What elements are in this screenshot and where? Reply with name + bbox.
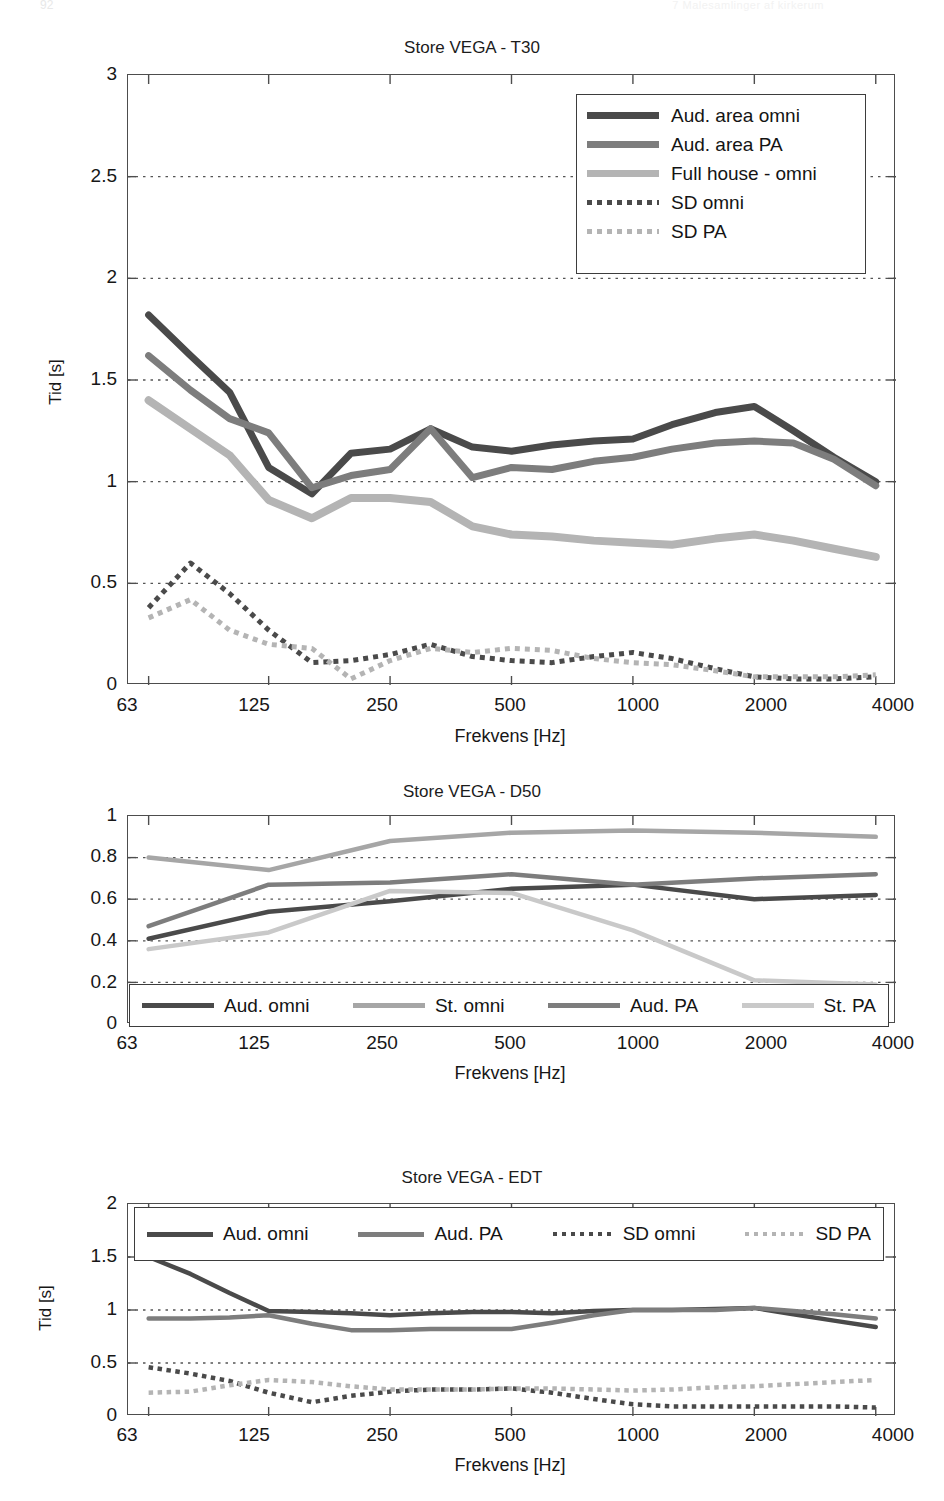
legend-label: Aud. PA: [434, 1223, 502, 1245]
legend-edt[interactable]: Aud. omni Aud. PA SD omni SD PA: [134, 1207, 884, 1261]
legend-item-aud-area-pa[interactable]: Aud. area PA: [587, 130, 865, 159]
legend-dotted-swatch: [587, 229, 659, 234]
legend-line-swatch: [353, 1003, 425, 1008]
x-tick-edt-4000: 4000: [853, 1424, 933, 1446]
legend-line-swatch: [358, 1232, 424, 1237]
chart-title-d50: Store VEGA - D50: [0, 782, 944, 802]
x-tick-edt-125: 125: [219, 1424, 289, 1446]
y-tick-d50-0_8: 0.8: [55, 845, 117, 867]
x-tick-t30-125: 125: [219, 694, 289, 716]
x-tick-t30-2000: 2000: [726, 694, 806, 716]
y-tick-d50-1: 1: [75, 804, 117, 826]
legend-label: Aud. PA: [630, 995, 698, 1017]
y-tick-edt-1: 1: [75, 1298, 117, 1320]
legend-d50[interactable]: Aud. omni St. omni Aud. PA St. PA: [129, 984, 889, 1027]
x-tick-t30-1000: 1000: [598, 694, 678, 716]
y-tick-edt-0_5: 0.5: [55, 1351, 117, 1373]
x-tick-t30-63: 63: [92, 694, 162, 716]
series-line-sd-omni: [149, 1367, 876, 1407]
legend-label: Aud. omni: [224, 995, 310, 1017]
legend-line-swatch: [587, 112, 659, 119]
legend-line-swatch: [587, 170, 659, 177]
legend-row-edt: Aud. omni Aud. PA SD omni SD PA: [135, 1208, 883, 1260]
legend-item-aud-pa[interactable]: Aud. PA: [548, 995, 698, 1017]
legend-line-swatch: [548, 1003, 620, 1008]
legend-dotted-swatch: [553, 1232, 613, 1236]
legend-item-sd-pa[interactable]: SD PA: [587, 217, 865, 246]
y-tick-edt-1_5: 1.5: [55, 1245, 117, 1267]
x-tick-t30-500: 500: [475, 694, 545, 716]
y-tick-t30-1_5: 1.5: [55, 368, 117, 390]
legend-label: SD PA: [815, 1223, 871, 1245]
series-line-st-omni: [149, 831, 876, 871]
y-tick-t30-3: 3: [75, 63, 117, 85]
legend-label: Aud. area omni: [671, 105, 800, 127]
legend-item-sd-pa[interactable]: SD PA: [745, 1223, 871, 1245]
legend-item-st-omni[interactable]: St. omni: [353, 995, 505, 1017]
legend-item-aud-omni[interactable]: Aud. omni: [142, 995, 310, 1017]
x-tick-t30-250: 250: [347, 694, 417, 716]
y-tick-t30-0_5: 0.5: [55, 571, 117, 593]
legend-row-d50: Aud. omni St. omni Aud. PA St. PA: [130, 985, 888, 1026]
legend-line-swatch: [587, 141, 659, 148]
x-tick-d50-4000: 4000: [853, 1032, 933, 1054]
x-tick-d50-125: 125: [219, 1032, 289, 1054]
legend-item-sd-omni[interactable]: SD omni: [587, 188, 865, 217]
legend-dotted-swatch: [587, 200, 659, 205]
legend-label: Full house - omni: [671, 163, 817, 185]
legend-item-aud-omni[interactable]: Aud. omni: [147, 1223, 309, 1245]
y-tick-t30-0: 0: [75, 673, 117, 695]
x-tick-t30-4000: 4000: [853, 694, 933, 716]
legend-label: St. PA: [824, 995, 876, 1017]
x-tick-edt-2000: 2000: [726, 1424, 806, 1446]
y-tick-d50-0_2: 0.2: [55, 971, 117, 993]
series-line-aud-area-pa: [149, 356, 876, 488]
x-tick-d50-1000: 1000: [598, 1032, 678, 1054]
legend-label: St. omni: [435, 995, 505, 1017]
legend-item-sd-omni[interactable]: SD omni: [553, 1223, 696, 1245]
y-tick-edt-0: 0: [75, 1404, 117, 1426]
legend-item-full-house-omni[interactable]: Full house - omni: [587, 159, 865, 188]
series-line-sd-omni: [149, 563, 876, 679]
y-tick-t30-2: 2: [75, 266, 117, 288]
x-tick-d50-63: 63: [92, 1032, 162, 1054]
chart-panel-t30: Store VEGA - T30 Tid [s] 3 2.5 2 1.5 1 0…: [0, 0, 944, 760]
legend-label: Aud. omni: [223, 1223, 309, 1245]
series-line-sd-pa: [149, 600, 876, 679]
legend-label: SD omni: [623, 1223, 696, 1245]
series-line-full-house-omni: [149, 400, 876, 557]
legend-line-swatch: [742, 1003, 814, 1008]
x-tick-edt-1000: 1000: [598, 1424, 678, 1446]
legend-item-st-pa[interactable]: St. PA: [742, 995, 876, 1017]
y-tick-d50-0: 0: [75, 1012, 117, 1034]
legend-label: SD omni: [671, 192, 744, 214]
x-axis-label-edt: Frekvens [Hz]: [60, 1455, 944, 1476]
legend-line-swatch: [142, 1003, 214, 1008]
y-tick-t30-1: 1: [75, 470, 117, 492]
x-tick-d50-2000: 2000: [726, 1032, 806, 1054]
y-tick-d50-0_6: 0.6: [55, 887, 117, 909]
x-tick-d50-500: 500: [475, 1032, 545, 1054]
x-tick-edt-63: 63: [92, 1424, 162, 1446]
y-tick-edt-2: 2: [75, 1192, 117, 1214]
y-axis-label-edt: Tid [s]: [36, 1248, 56, 1368]
x-axis-label-d50: Frekvens [Hz]: [60, 1063, 944, 1084]
legend-item-aud-area-omni[interactable]: Aud. area omni: [587, 101, 865, 130]
chart-title-edt: Store VEGA - EDT: [0, 1168, 944, 1188]
x-tick-d50-250: 250: [347, 1032, 417, 1054]
legend-dotted-swatch: [745, 1232, 805, 1236]
y-tick-d50-0_4: 0.4: [55, 929, 117, 951]
legend-label: Aud. area PA: [671, 134, 783, 156]
chart-title-t30: Store VEGA - T30: [0, 38, 944, 58]
chart-panel-d50: Store VEGA - D50 1 0.8 0.6 0.4 0.2 0 63 …: [0, 760, 944, 1130]
y-tick-t30-2_5: 2.5: [55, 165, 117, 187]
legend-t30[interactable]: Aud. area omni Aud. area PA Full house -…: [576, 94, 866, 274]
legend-label: SD PA: [671, 221, 727, 243]
x-tick-edt-500: 500: [475, 1424, 545, 1446]
chart-panel-edt: Store VEGA - EDT Tid [s] 2 1.5 1 0.5 0 6…: [0, 1128, 944, 1501]
series-line-st-pa: [149, 891, 876, 985]
x-axis-label-t30: Frekvens [Hz]: [60, 726, 944, 747]
legend-item-aud-pa[interactable]: Aud. PA: [358, 1223, 502, 1245]
legend-line-swatch: [147, 1232, 213, 1237]
x-tick-edt-250: 250: [347, 1424, 417, 1446]
